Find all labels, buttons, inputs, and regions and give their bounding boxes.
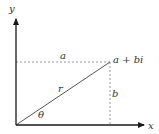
a-label: a — [60, 50, 66, 61]
y-axis-label: y — [8, 3, 15, 14]
x-axis-label: x — [148, 120, 154, 131]
point-label: a + bi — [113, 54, 143, 65]
complex-plane-diagram: y x a + bi a b r θ — [0, 0, 159, 134]
b-label: b — [112, 88, 118, 99]
r-label: r — [58, 83, 64, 94]
radius-line — [16, 62, 110, 125]
theta-label: θ — [38, 109, 44, 120]
